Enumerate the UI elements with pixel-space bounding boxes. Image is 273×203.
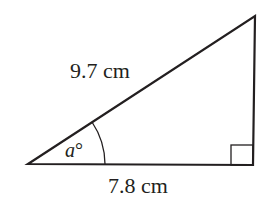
triangle (28, 16, 255, 165)
angle-arc (92, 122, 105, 164)
right-angle-marker (231, 145, 253, 165)
hypotenuse-label: 9.7 cm (70, 58, 130, 83)
angle-variable: a (65, 139, 75, 161)
degree-symbol: ° (75, 139, 83, 161)
angle-label: a° (65, 139, 83, 161)
base-label: 7.8 cm (108, 173, 168, 198)
triangle-diagram: 9.7 cm 7.8 cm a° (0, 0, 273, 203)
